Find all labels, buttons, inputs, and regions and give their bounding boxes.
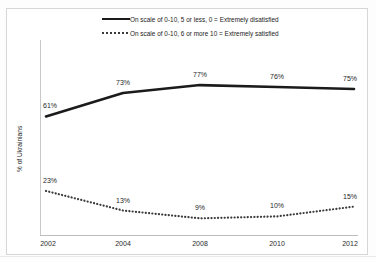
chart-figure: On scale of 0-10, 5 or less, 0 = Extreme… [0,0,376,262]
data-label-dissatisfied-2002: 61% [43,102,57,109]
dotted-line-sample-icon [100,28,130,38]
x-tick-label-2010: 2010 [269,240,285,247]
solid-line-sample-icon [100,14,130,24]
x-tick-label-2008: 2008 [192,240,208,247]
y-axis-title: % of Ukrainians [14,104,24,194]
data-label-dissatisfied-2010: 76% [270,73,284,80]
chart-legend: On scale of 0-10, 5 or less, 0 = Extreme… [0,12,376,42]
figure-bottom-divider [0,256,376,257]
data-label-dissatisfied-2012: 75% [343,75,357,82]
legend-item-dissatisfied[interactable]: On scale of 0-10, 5 or less, 0 = Extreme… [100,13,279,25]
x-tick-label-2002: 2002 [40,240,56,247]
legend-item-dissatisfied-label: On scale of 0-10, 5 or less, 0 = Extreme… [130,16,279,23]
x-tick-label-2012: 2012 [342,240,358,247]
data-label-satisfied-2010: 10% [270,202,284,209]
data-label-dissatisfied-2008: 77% [193,71,207,78]
legend-item-satisfied-label: On scale of 0-10, 6 or more 10 = Extreme… [130,30,279,37]
data-labels-layer: 61%73%77%76%75%23%13%9%10%15% [40,40,358,236]
x-axis-tick-labels: 20022004200820102012 [40,240,358,254]
data-label-satisfied-2004: 13% [116,196,130,203]
data-label-satisfied-2008: 9% [195,204,205,211]
x-tick-label-2004: 2004 [115,240,131,247]
legend-item-satisfied[interactable]: On scale of 0-10, 6 or more 10 = Extreme… [100,27,279,39]
data-label-satisfied-2002: 23% [43,176,57,183]
data-label-satisfied-2012: 15% [343,192,357,199]
data-label-dissatisfied-2004: 73% [116,78,130,85]
